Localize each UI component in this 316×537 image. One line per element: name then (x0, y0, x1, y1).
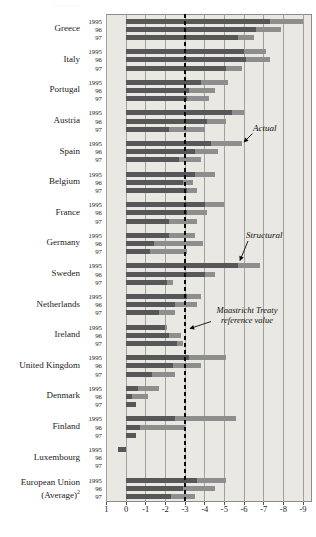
bar-structural (126, 119, 207, 124)
year-label: 96 (80, 179, 102, 186)
bar-structural (126, 96, 187, 101)
axis-tick-label: 1 (96, 504, 116, 514)
year-label: 97 (80, 340, 102, 347)
bar-structural (126, 355, 189, 360)
actual-annotation: Actual (253, 124, 277, 134)
year-label: 96 (80, 332, 102, 339)
country-label: Finland (0, 421, 80, 431)
chart: . . . . . . . 10-1-2-3-4-5-6-7-8-9Greece… (0, 0, 316, 537)
axis-tick-label: 0 (116, 504, 136, 514)
bar-structural (126, 280, 167, 285)
country-label: Sweden (0, 268, 80, 278)
bar-structural (126, 210, 187, 215)
axis-tick-label: -6 (234, 504, 254, 514)
structural-annotation: Structural (246, 231, 283, 241)
year-label: 96 (80, 393, 102, 400)
year-label: 1995 (80, 324, 102, 331)
bar-structural (126, 66, 226, 71)
bar-structural (126, 141, 211, 146)
bar-structural (126, 19, 270, 24)
bar-structural (126, 88, 189, 93)
axis-tick-label: -4 (195, 504, 215, 514)
year-label: 96 (80, 209, 102, 216)
year-label: 96 (80, 56, 102, 63)
bar-structural (126, 302, 175, 307)
bar-structural (126, 241, 154, 246)
country-label: Ireland (0, 329, 80, 339)
bar-structural (126, 341, 177, 346)
bar-structural (126, 272, 205, 277)
year-label: 1995 (80, 79, 102, 86)
year-label: 1995 (80, 109, 102, 116)
year-label: 1995 (80, 477, 102, 484)
year-label: 1995 (80, 262, 102, 269)
axis-tick-label: -3 (175, 504, 195, 514)
year-label: 1995 (80, 232, 102, 239)
year-label: 97 (80, 156, 102, 163)
year-label: 96 (80, 87, 102, 94)
year-label: 97 (80, 371, 102, 378)
year-label: 97 (80, 279, 102, 286)
country-label: Belgium (0, 176, 80, 186)
bar-structural (126, 263, 238, 268)
country-label: Denmark (0, 390, 80, 400)
bar-structural (126, 202, 205, 207)
year-label: 97 (80, 187, 102, 194)
axis-tick-label: -2 (155, 504, 175, 514)
bar-structural (118, 447, 126, 452)
reference-line (184, 14, 186, 502)
year-label: 96 (80, 148, 102, 155)
bar-structural (126, 80, 201, 85)
bar-structural (126, 249, 150, 254)
year-label: 97 (80, 126, 102, 133)
year-label: 1995 (80, 354, 102, 361)
year-label: 97 (80, 309, 102, 316)
year-label: 1995 (80, 446, 102, 453)
country-label: Germany (0, 237, 80, 247)
bar-structural (126, 363, 173, 368)
year-label: 96 (80, 485, 102, 492)
bar-structural (126, 478, 197, 483)
gridline (106, 14, 107, 502)
gridline (263, 14, 264, 502)
bar-structural (126, 494, 171, 499)
country-label: Portugal (0, 84, 80, 94)
gridline (224, 14, 225, 502)
country-label: Netherlands (0, 299, 80, 309)
year-label: 96 (80, 26, 102, 33)
bar-structural (126, 425, 140, 430)
bar-structural (126, 486, 183, 491)
year-label: 1995 (80, 18, 102, 25)
country-label: Greece (0, 23, 80, 33)
year-label: 1995 (80, 140, 102, 147)
year-label: 97 (80, 34, 102, 41)
bar-structural (126, 180, 183, 185)
maastricht-annotation: Maastricht Treatyreference value (203, 306, 291, 325)
year-label: 97 (80, 218, 102, 225)
bar-structural (126, 127, 169, 132)
year-label: 96 (80, 301, 102, 308)
bar-structural (126, 188, 187, 193)
year-label: 96 (80, 118, 102, 125)
axis-tick-label: -7 (254, 504, 274, 514)
bar-structural (126, 402, 136, 407)
year-label: 97 (80, 493, 102, 500)
bar-structural (126, 372, 152, 377)
year-label: 96 (80, 424, 102, 431)
axis-tick-label: -1 (136, 504, 156, 514)
year-label: 97 (80, 95, 102, 102)
country-label: Italy (0, 54, 80, 64)
bar-structural (126, 294, 187, 299)
country-label: United Kingdom (0, 360, 80, 370)
bar-structural (126, 233, 169, 238)
year-label: 96 (80, 240, 102, 247)
bar-structural (126, 310, 159, 315)
country-label: Austria (0, 115, 80, 125)
year-label: 1995 (80, 48, 102, 55)
bar-structural (126, 157, 179, 162)
year-label: 96 (80, 271, 102, 278)
country-label: Luxembourg (0, 452, 80, 462)
axis-tick-label: -5 (214, 504, 234, 514)
bar-structural (126, 27, 256, 32)
year-label: 1995 (80, 415, 102, 422)
